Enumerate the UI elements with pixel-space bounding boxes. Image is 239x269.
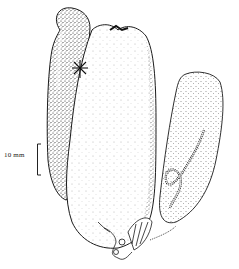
center-specimen xyxy=(67,25,177,260)
scale-bar xyxy=(38,144,42,175)
scale-bar-label: 10 mm xyxy=(4,151,25,159)
right-specimen xyxy=(160,72,223,223)
illustration xyxy=(0,0,239,269)
